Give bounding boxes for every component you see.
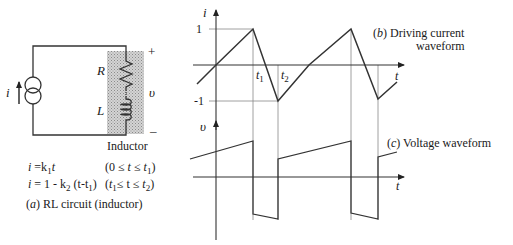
- minus-terminal: –: [149, 123, 157, 138]
- voltage-chart: υ t (c) Voltage waveform: [190, 119, 492, 219]
- equation-1: i =k1t: [28, 160, 56, 176]
- equations: i =k1t (0 ≤ t ≤ t1) i = 1 - k2 (t-t1) (t…: [26, 160, 155, 211]
- voltage-label: υ: [149, 85, 155, 100]
- voltage-waveform: [190, 141, 397, 219]
- current-source-circle-bottom: [25, 88, 41, 104]
- resistor-label: R: [96, 63, 105, 78]
- x-tick-t1: t1: [256, 68, 264, 84]
- y-tick-neg1: -1: [194, 94, 204, 108]
- inductor-label: L: [96, 103, 104, 118]
- current-y-label: i: [203, 5, 207, 20]
- caption-a: (a) RL circuit (inductor): [26, 197, 143, 211]
- current-chart-title: (b) Driving current: [373, 26, 465, 40]
- y-tick-1: 1: [196, 22, 202, 36]
- current-chart-title-line2: waveform: [416, 39, 465, 53]
- voltage-x-label: t: [396, 179, 400, 193]
- equation-1-range: (0 ≤ t ≤ t1): [105, 160, 155, 176]
- source-current-label: i: [6, 85, 10, 100]
- rl-circuit: i R L + υ – Inductor: [6, 44, 157, 153]
- voltage-y-label: υ: [200, 119, 206, 134]
- equation-2: i = 1 - k2 (t-t1): [28, 177, 97, 193]
- equation-2-range: (t1≤ t ≤ t2): [105, 177, 154, 193]
- rl-figure: i R L + υ – Inductor i =k1t (0 ≤ t ≤ t1)…: [0, 0, 513, 245]
- plus-terminal: +: [148, 44, 155, 59]
- x-tick-t2: t2: [281, 68, 289, 84]
- current-x-label: t: [395, 69, 399, 83]
- current-chart: i 1 -1 t1 t2 t (b) Driving current wavef…: [193, 5, 465, 240]
- inductor-caption: Inductor: [107, 139, 148, 153]
- voltage-chart-title: (c) Voltage waveform: [387, 136, 492, 150]
